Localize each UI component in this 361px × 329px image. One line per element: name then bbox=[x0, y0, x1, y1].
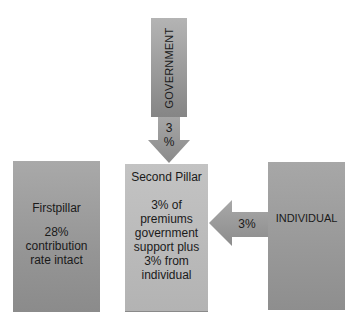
government-arrow-value: 3 bbox=[158, 121, 180, 135]
government-label: GOVERNMENT bbox=[163, 27, 175, 108]
individual-label: INDIVIDUAL bbox=[268, 212, 345, 224]
individual-arrow-label: 3% bbox=[232, 217, 262, 231]
first-pillar-box: Firstpillar 28% contribution rate intact bbox=[13, 161, 100, 312]
individual-box: INDIVIDUAL bbox=[268, 162, 345, 310]
second-pillar-box: Second Pillar 3% of premiums government … bbox=[125, 164, 208, 312]
government-arrow-unit: % bbox=[158, 135, 180, 149]
second-pillar-body: 3% of premiums government support plus 3… bbox=[125, 198, 208, 282]
second-pillar-title: Second Pillar bbox=[125, 170, 208, 184]
first-pillar-body: 28% contribution rate intact bbox=[13, 225, 100, 267]
government-box: GOVERNMENT bbox=[151, 18, 187, 117]
first-pillar-title: Firstpillar bbox=[13, 201, 100, 215]
government-arrow-label: 3 % bbox=[158, 121, 180, 149]
